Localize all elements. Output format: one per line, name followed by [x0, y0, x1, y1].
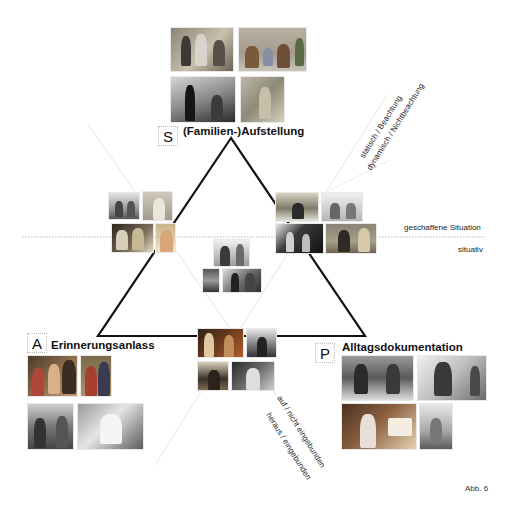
- figure-caption: Abb. 6: [465, 484, 488, 493]
- photo-a-4: [77, 403, 144, 450]
- axis-label-situativ: situativ: [458, 245, 483, 254]
- photo-a-3: [27, 403, 74, 450]
- photo-right-mid-3: [275, 223, 324, 254]
- pole-a-title: Erinnerungsanlass: [51, 339, 155, 351]
- photo-s-2: [238, 27, 307, 72]
- photo-center-3: [222, 268, 262, 293]
- photo-bottom-center-4: [231, 361, 275, 391]
- photo-center-2: [202, 268, 220, 293]
- guide-line-right-short: [320, 160, 390, 195]
- photo-p-2: [417, 355, 487, 401]
- photo-s-4: [240, 76, 285, 123]
- pole-a-badge: A: [27, 333, 47, 353]
- photo-s-1: [170, 27, 234, 72]
- photo-bottom-center-3: [197, 361, 229, 391]
- photo-p-4: [419, 403, 453, 450]
- photo-bottom-center-1: [197, 328, 244, 358]
- triangle-diagram: S (Familien-)Aufstellung statisch / Beac…: [0, 0, 515, 506]
- pole-p-badge: P: [315, 343, 335, 363]
- photo-bottom-center-2: [246, 328, 277, 358]
- photo-left-mid-3: [111, 223, 154, 253]
- photo-p-3: [341, 403, 417, 450]
- pole-s-badge: S: [158, 126, 178, 146]
- photo-left-mid-4: [155, 223, 176, 253]
- photo-left-mid-2: [142, 191, 173, 221]
- photo-right-mid-4: [325, 223, 377, 254]
- photo-a-1: [27, 355, 78, 397]
- pole-s-title: (Familien-)Aufstellung: [183, 125, 304, 137]
- photo-s-3: [170, 76, 236, 123]
- photo-center-1: [213, 239, 250, 267]
- photo-p-1: [341, 355, 414, 401]
- photo-a-2: [80, 355, 112, 397]
- photo-right-mid-2: [321, 192, 363, 222]
- photo-right-mid-1: [275, 192, 319, 222]
- pole-p-title: Alltagsdokumentation: [342, 341, 463, 353]
- axis-label-geschaffene-situation: geschaffene Situation: [404, 223, 481, 232]
- photo-left-mid-1: [108, 192, 140, 220]
